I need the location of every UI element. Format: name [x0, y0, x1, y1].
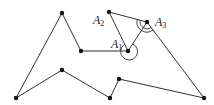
vertex — [108, 96, 112, 100]
vertex — [60, 11, 64, 15]
vertex — [117, 77, 121, 81]
label-a2: A2 — [92, 13, 104, 28]
vertex — [14, 96, 18, 100]
vertex-a3 — [145, 20, 149, 24]
label-a3: A3 — [154, 15, 166, 30]
polygon-diagram: A1 A2 A3 — [0, 0, 214, 105]
vertex-a2 — [107, 10, 111, 14]
vertex — [79, 49, 83, 53]
label-a1: A1 — [110, 37, 122, 52]
vertex — [202, 96, 206, 100]
polygon-outline — [16, 12, 204, 98]
vertex — [60, 68, 64, 72]
vertex-a1 — [126, 49, 130, 53]
